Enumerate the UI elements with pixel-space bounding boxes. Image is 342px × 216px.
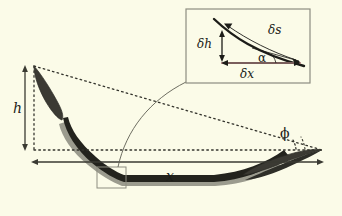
height-measure-arrow (22, 65, 28, 151)
figure-root: h x ϕ δs δh δx α (0, 0, 342, 216)
height-label: h (13, 101, 22, 115)
callout-leader-line (118, 82, 186, 167)
phi-angle-arc-outer-icon (301, 137, 305, 149)
phi-angle-arc-icon (293, 140, 296, 149)
alpha-angle-label: α (258, 52, 266, 64)
delta-h-label: δh (197, 38, 212, 50)
delta-x-label: δx (240, 68, 254, 80)
span-label: x (166, 169, 174, 183)
delta-s-label: δs (268, 24, 281, 36)
phi-angle-label: ϕ (280, 126, 290, 140)
crest-leaf-shape (34, 66, 63, 120)
